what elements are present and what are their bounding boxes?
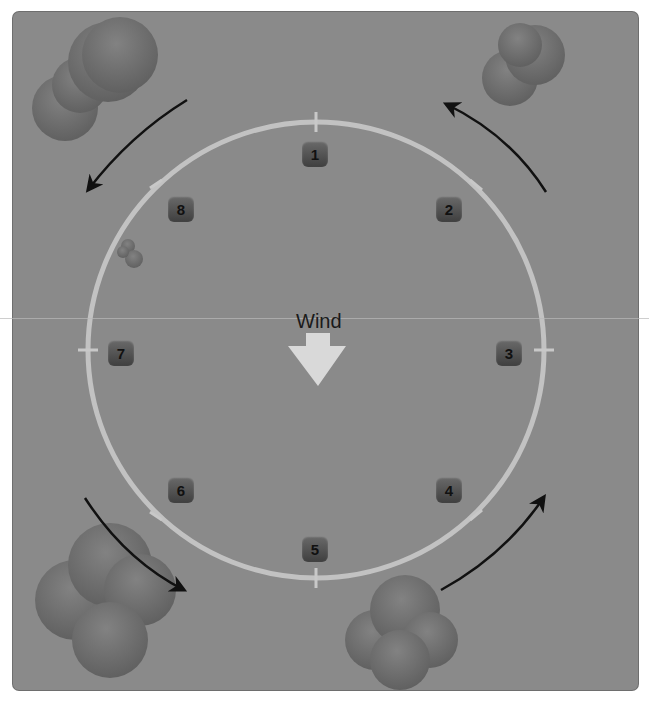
position-marker-1: 1 <box>302 141 328 167</box>
rotation-arrow-bottom-right <box>441 497 544 590</box>
rotation-arrow-top-left <box>88 100 187 190</box>
cloud-bottom-left <box>35 523 176 678</box>
position-marker-5: 5 <box>302 536 328 562</box>
position-marker-2: 2 <box>436 196 462 222</box>
position-marker-8: 8 <box>168 196 194 222</box>
position-marker-7: 7 <box>108 340 134 366</box>
cloud-top-left <box>32 17 158 141</box>
small-cloud <box>117 239 143 268</box>
cloud-top-right <box>482 23 565 106</box>
rotation-arrow-top-right <box>446 104 546 192</box>
wind-label: Wind <box>296 310 342 333</box>
position-marker-4: 4 <box>436 477 462 503</box>
wind-arrow-icon <box>288 333 346 386</box>
position-marker-3: 3 <box>496 340 522 366</box>
diagram-canvas <box>13 12 638 690</box>
diagram-panel <box>13 12 638 690</box>
cloud-bottom-right <box>345 575 458 690</box>
position-marker-6: 6 <box>168 477 194 503</box>
